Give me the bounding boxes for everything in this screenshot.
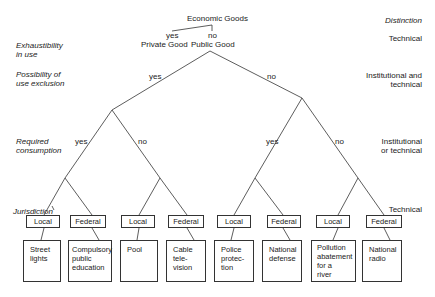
edge-label-no: no bbox=[335, 137, 344, 146]
criterion-required-consumption: Required consumption bbox=[16, 137, 61, 155]
leaf-pool: Pool bbox=[120, 240, 158, 282]
jurisdiction-box-federal: Federal bbox=[366, 215, 402, 228]
distinction-header: Distinction bbox=[385, 16, 422, 25]
leaf-cable-television: Cable tele- vision bbox=[166, 240, 206, 282]
leaf-police-protection: Police protec- tion bbox=[214, 240, 254, 282]
edge-label-yes: yes bbox=[266, 137, 278, 146]
jurisdiction-box-federal: Federal bbox=[267, 215, 301, 228]
edge-label-no: no bbox=[138, 137, 147, 146]
jurisdiction-box-local: Local bbox=[316, 215, 350, 228]
edge-label-yes: yes bbox=[75, 137, 87, 146]
jurisdiction-box-local: Local bbox=[121, 215, 155, 228]
jurisdiction-box-local: Local bbox=[217, 215, 251, 228]
distinction-jurisdiction: Technical bbox=[389, 205, 422, 214]
criterion-use-exclusion: Possibility of use exclusion bbox=[16, 70, 64, 88]
leaf-national-defense: National defense bbox=[262, 240, 302, 282]
leaf-pollution-abatement: Pollution abatement for a river bbox=[311, 240, 356, 282]
root-node: Economic Goods bbox=[187, 14, 248, 23]
edge-label-yes: yes bbox=[166, 31, 178, 40]
distinction-required-consumption: Institutional or technical bbox=[381, 137, 422, 155]
edge-label-no: no bbox=[208, 31, 217, 40]
leaf-compulsory-public-education: Compulsory public education bbox=[68, 240, 112, 282]
criterion-exhaustibility: Exhaustibility in use bbox=[16, 41, 63, 59]
leaf-national-radio: National radio bbox=[362, 240, 402, 282]
jurisdiction-box-federal: Federal bbox=[168, 215, 204, 228]
jurisdiction-box-local: Local bbox=[26, 215, 60, 228]
node-public-good: Public Good bbox=[191, 40, 235, 49]
edge-label-no: no bbox=[267, 72, 276, 81]
distinction-exhaustibility: Technical bbox=[389, 34, 422, 43]
node-private-good: Private Good bbox=[141, 40, 188, 49]
leaf-street-lights: Street lights bbox=[23, 240, 61, 282]
distinction-use-exclusion: Institutional and technical bbox=[366, 71, 422, 89]
jurisdiction-box-federal: Federal bbox=[70, 215, 106, 228]
edge-label-yes: yes bbox=[149, 72, 161, 81]
